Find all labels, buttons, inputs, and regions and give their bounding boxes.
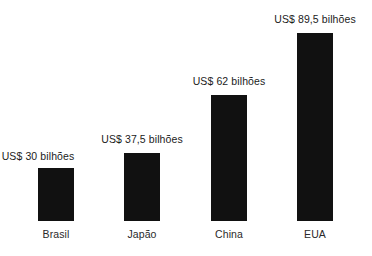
value-label-eua: US$ 89,5 bilhões	[235, 13, 372, 25]
category-label-eua: EUA	[255, 228, 372, 240]
bar-brasil	[38, 168, 74, 221]
value-label-japao: US$ 37,5 bilhões	[62, 133, 222, 145]
bar-japao	[124, 153, 160, 221]
bar-china	[211, 95, 247, 221]
plot-area: US$ 30 bilhões Brasil US$ 37,5 bilhões J…	[0, 0, 372, 256]
bar-eua	[297, 33, 333, 221]
bar-chart: US$ 30 bilhões Brasil US$ 37,5 bilhões J…	[0, 0, 372, 256]
value-label-china: US$ 62 bilhões	[149, 75, 309, 87]
value-label-brasil: US$ 30 bilhões	[0, 150, 118, 162]
